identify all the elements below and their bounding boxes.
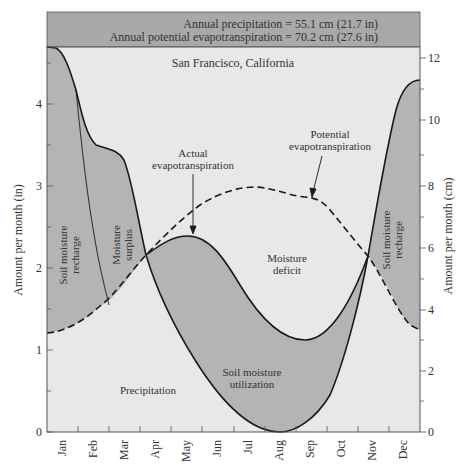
svg-text:Soil moisture: Soil moisture: [380, 210, 392, 269]
svg-text:Jun: Jun: [210, 440, 224, 457]
svg-text:Feb: Feb: [86, 440, 100, 458]
left-axis-label: Amount per month (in): [11, 184, 25, 296]
svg-text:Sep: Sep: [303, 440, 317, 458]
svg-text:0: 0: [36, 425, 42, 439]
svg-text:recharge: recharge: [392, 221, 404, 259]
svg-text:utilization: utilization: [230, 378, 275, 390]
svg-text:Dec: Dec: [396, 440, 410, 459]
svg-text:deficit: deficit: [273, 264, 301, 276]
svg-text:Oct: Oct: [334, 439, 348, 457]
svg-text:Jul: Jul: [241, 439, 255, 454]
month-labels: Jan Feb Mar Apr May Jun Jul Aug Sep Oct …: [55, 439, 410, 462]
svg-text:May: May: [179, 440, 193, 462]
svg-text:4: 4: [428, 303, 434, 317]
header-line-2: Annual potential evapotranspiration = 70…: [110, 30, 378, 44]
svg-text:Precipitation: Precipitation: [120, 384, 177, 396]
svg-text:surplus: surplus: [122, 229, 134, 261]
svg-text:6: 6: [428, 241, 434, 255]
svg-text:evapotranspiration: evapotranspiration: [289, 140, 371, 152]
svg-text:8: 8: [428, 179, 434, 193]
svg-text:2: 2: [36, 261, 42, 275]
svg-text:Jan: Jan: [55, 440, 69, 456]
svg-text:Moisture: Moisture: [267, 252, 307, 264]
svg-text:12: 12: [428, 51, 440, 65]
left-tick-labels: 0 1 2 3 4: [36, 97, 42, 439]
header-line-1: Annual precipitation = 55.1 cm (21.7 in): [183, 17, 378, 31]
svg-text:Nov: Nov: [365, 440, 379, 461]
svg-text:2: 2: [428, 364, 434, 378]
svg-text:Potential: Potential: [310, 128, 349, 140]
svg-text:4: 4: [36, 97, 42, 111]
svg-text:Soil moisture: Soil moisture: [223, 366, 282, 378]
right-tick-labels: 0 2 4 6 8 10 12: [428, 51, 440, 439]
water-budget-chart: 0 1 2 3 4 Amount per month (in) 0 2 4 6 …: [0, 0, 466, 472]
svg-text:Mar: Mar: [117, 440, 131, 460]
svg-text:Apr: Apr: [148, 440, 162, 459]
right-axis-label: Amount per month (cm): [441, 178, 455, 295]
svg-text:0: 0: [428, 425, 434, 439]
svg-text:recharge: recharge: [69, 236, 81, 274]
location-title: San Francisco, California: [172, 56, 295, 70]
svg-text:Actual: Actual: [178, 147, 207, 159]
svg-text:3: 3: [36, 179, 42, 193]
svg-text:1: 1: [36, 343, 42, 357]
svg-text:Aug: Aug: [272, 440, 286, 461]
right-axis: [420, 58, 426, 432]
svg-text:10: 10: [428, 113, 440, 127]
svg-text:evapotranspiration: evapotranspiration: [152, 159, 234, 171]
svg-text:Soil moisture: Soil moisture: [57, 225, 69, 284]
svg-text:Moisture: Moisture: [110, 225, 122, 265]
